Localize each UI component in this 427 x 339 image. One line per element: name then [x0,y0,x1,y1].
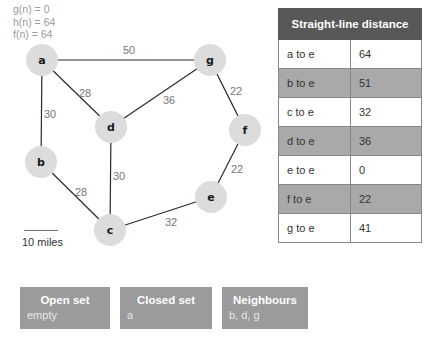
open-set-box: Open set empty [20,287,110,329]
edge-label-g-d: 36 [163,94,175,106]
table-row: d to e36 [279,127,422,156]
edge-g-d [111,60,210,127]
closed-set-box: Closed set a [120,287,212,329]
edge-label-d-c: 30 [113,170,125,182]
svg-text:g: g [206,54,214,67]
node-b: b [25,146,57,178]
edge-label-a-g: 50 [123,44,135,56]
table-title: Straight-line distance [279,9,422,40]
svg-text:d: d [107,121,115,134]
closed-set-title: Closed set [120,294,212,306]
node-c: c [94,214,126,246]
edge-label-a-d: 28 [79,87,91,99]
svg-text:a: a [38,54,45,67]
table-row: e to e0 [279,156,422,185]
node-e: e [195,181,227,213]
table-row: a to e64 [279,40,422,69]
node-g: g [194,44,226,76]
edge-label-f-e: 22 [231,163,243,175]
neighbours-title: Neighbours [222,294,308,306]
svg-text:b: b [37,156,45,169]
svg-text:f: f [243,124,248,137]
graph-diagram: 50 28 30 36 22 30 28 22 32 a g d f b e c [0,0,270,260]
neighbours-box: Neighbours b, d, g [222,287,308,329]
table-row: f to e22 [279,185,422,214]
scale-label: 10 miles [22,236,63,248]
closed-set-value: a [120,309,212,321]
node-a: a [26,44,58,76]
table-row: g to e41 [279,214,422,243]
edge-label-b-c: 28 [75,186,87,198]
open-set-title: Open set [20,294,110,306]
open-set-value: empty [20,309,110,321]
scale-bar [24,230,58,231]
node-f: f [229,114,261,146]
table-row: b to e51 [279,69,422,98]
straight-line-distance-table: Straight-line distance a to e64 b to e51… [278,8,422,243]
table-row: c to e32 [279,98,422,127]
edge-label-g-f: 22 [230,85,242,97]
node-d: d [95,111,127,143]
neighbours-value: b, d, g [222,309,308,321]
edge-label-a-b: 30 [44,108,56,120]
edge-label-c-e: 32 [165,216,177,228]
svg-text:c: c [107,224,114,237]
svg-text:e: e [207,191,214,204]
